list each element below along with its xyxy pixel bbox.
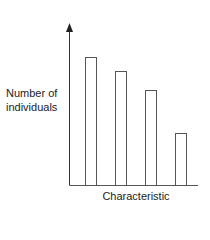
y-axis-label-line2: individuals — [6, 100, 68, 114]
bar-4 — [176, 134, 187, 186]
y-axis-label: Number of individuals — [6, 86, 68, 114]
y-axis-label-line1: Number of — [6, 86, 68, 100]
x-axis-label: Characteristic — [69, 190, 203, 202]
y-axis-arrow-icon — [66, 23, 73, 32]
bar-3 — [146, 91, 157, 186]
bar-2 — [116, 72, 127, 186]
bar-1 — [86, 58, 97, 186]
bars-group — [86, 58, 187, 186]
